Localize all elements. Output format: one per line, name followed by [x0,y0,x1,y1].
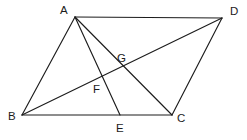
side-DC [172,18,222,115]
diagonal-BD [22,18,222,115]
side-AD [75,17,222,18]
point-label-B: B [8,110,16,122]
segments-layer [22,17,222,115]
figure-canvas: ADBCEFG [0,0,247,140]
point-label-E: E [116,122,124,134]
point-label-D: D [230,5,238,17]
point-label-A: A [60,4,68,16]
geometry-figure: ADBCEFG [0,0,247,140]
point-label-G: G [117,52,126,64]
cevian-AE [75,17,120,115]
side-AB [22,17,75,115]
point-label-C: C [177,112,185,124]
point-label-F: F [93,83,100,95]
diagonal-AC [75,17,172,115]
